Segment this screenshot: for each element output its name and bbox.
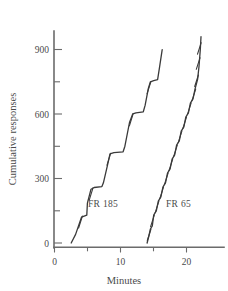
fr65-reinforcement-mark-11 [192, 89, 196, 101]
y-ticklabel-group: 0 300 600 900 [35, 45, 50, 249]
y-ticklabel-300: 300 [35, 174, 50, 184]
fr65-reinforcement-mark-10 [187, 103, 191, 115]
y-axis-title: Cumulative responses [7, 93, 18, 185]
fr65-reinforcement-mark-3 [155, 201, 159, 213]
series-fr65: FR 65 [147, 37, 201, 243]
fr65-reinforcement-mark-5 [164, 173, 168, 185]
x-axis-title: Minutes [107, 275, 141, 286]
fr65-reinforcement-mark-1 [147, 229, 151, 241]
fr65-reinforcement-mark-7 [174, 145, 178, 157]
y-ticklabel-0: 0 [44, 239, 49, 249]
y-ticklabel-600: 600 [35, 110, 50, 120]
fr185-curve [71, 50, 162, 243]
x-ticklabel-20: 20 [182, 257, 192, 267]
series-fr185: FR 185 [71, 50, 162, 243]
cumulative-record-figure: 0 300 600 900 0 10 20 Minutes Cumulative… [0, 0, 228, 291]
fr185-reinforcement-mark-3 [107, 153, 111, 165]
fr185-reinforcement-mark-5 [147, 82, 151, 94]
fr185-series-label: FR 185 [88, 199, 118, 209]
fr65-reinforcement-mark-9 [183, 117, 187, 129]
x-ticklabel-0: 0 [52, 257, 57, 267]
x-ticklabel-group: 0 10 20 [52, 257, 191, 267]
x-ticklabel-10: 10 [116, 257, 126, 267]
fr65-reinforcement-mark-8 [178, 131, 182, 143]
y-tick-group [54, 50, 62, 244]
fr65-reinforcement-mark-6 [169, 159, 173, 171]
chart-svg: 0 300 600 900 0 10 20 Minutes Cumulative… [0, 0, 228, 291]
fr65-series-label: FR 65 [166, 199, 191, 209]
y-ticklabel-900: 900 [35, 45, 50, 55]
fr65-reinforcement-mark-4 [160, 187, 164, 199]
